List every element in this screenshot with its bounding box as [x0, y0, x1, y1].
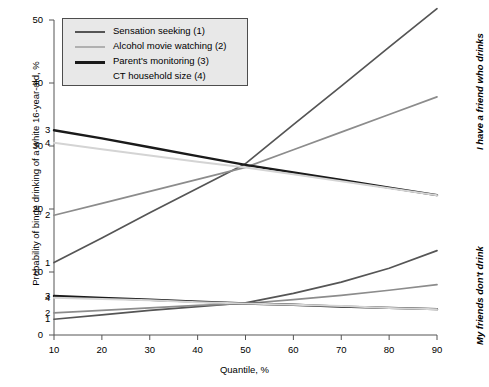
series-tag: 4	[45, 137, 50, 148]
series-line	[54, 143, 437, 195]
legend-line-swatch	[75, 61, 105, 64]
series-tag: 3	[45, 124, 50, 135]
legend-item: Sensation seeking (1)	[69, 25, 245, 39]
x-tick-label: 60	[282, 344, 304, 355]
legend-item: Parent's monitoring (3)	[69, 55, 245, 69]
x-tick-label: 30	[139, 344, 161, 355]
legend-line-swatch	[75, 76, 105, 78]
legend-item: Alcohol movie watching (2)	[69, 40, 245, 54]
legend-label: CT household size (4)	[113, 70, 206, 81]
chart-legend: Sensation seeking (1)Alcohol movie watch…	[62, 18, 248, 86]
y-tick-label: 50	[21, 14, 43, 25]
panel-label-top: I have a friend who drinks	[474, 33, 485, 150]
legend-label: Parent's monitoring (3)	[113, 55, 209, 66]
y-tick-label: 0	[21, 329, 43, 340]
legend-item: CT household size (4)	[69, 70, 245, 84]
x-tick-label: 70	[330, 344, 352, 355]
legend-label: Sensation seeking (1)	[113, 25, 205, 36]
series-tag: 1	[45, 257, 50, 268]
y-tick-label: 30	[21, 140, 43, 151]
series-line	[54, 97, 437, 215]
series-line	[54, 251, 437, 320]
y-tick-label: 20	[21, 203, 43, 214]
legend-line-swatch	[75, 46, 105, 48]
x-tick-label: 20	[91, 344, 113, 355]
series-tag: 4	[45, 292, 50, 303]
x-tick-label: 10	[43, 344, 65, 355]
panel-label-bottom: My friends don't drink	[474, 246, 485, 345]
y-tick-label: 40	[21, 77, 43, 88]
series-tag: 2	[45, 307, 50, 318]
legend-line-swatch	[75, 31, 105, 33]
x-tick-label: 50	[235, 344, 257, 355]
series-line	[54, 298, 437, 309]
x-tick-label: 80	[378, 344, 400, 355]
x-tick-label: 90	[426, 344, 448, 355]
chart-figure: Probability of binge drinking of a white…	[0, 0, 489, 387]
x-tick-label: 40	[187, 344, 209, 355]
y-tick-label: 10	[21, 266, 43, 277]
legend-label: Alcohol movie watching (2)	[113, 40, 227, 51]
series-tag: 2	[45, 209, 50, 220]
